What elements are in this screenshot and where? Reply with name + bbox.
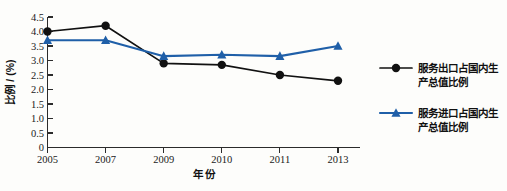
- legend-label-line1: 服务进口占国内生: [418, 107, 499, 119]
- line-chart-svg: 00.51.01.52.02.53.03.54.04.5 20052007200…: [0, 0, 507, 191]
- data-point: [101, 22, 109, 30]
- y-tick-label: 0: [39, 142, 44, 153]
- data-point: [333, 41, 342, 50]
- y-tick-label: 2.5: [31, 70, 44, 81]
- x-axis-title: 年 份: [193, 168, 217, 180]
- y-axis-title: 比例 / (%): [4, 59, 16, 104]
- y-tick-label: 3.5: [31, 41, 44, 52]
- data-series-layer: [43, 22, 343, 86]
- chart-axes: [48, 17, 361, 148]
- legend-label-line2: 产总值比例: [418, 121, 468, 133]
- x-tick-label: 2010: [211, 154, 232, 165]
- y-tick-label: 1.0: [31, 113, 44, 124]
- series-line-2: [48, 40, 339, 56]
- y-tick-label: 4.5: [31, 12, 44, 23]
- y-tick-label: 1.5: [31, 99, 44, 110]
- x-tick-label: 2007: [95, 154, 116, 165]
- x-tick-label: 2005: [37, 154, 58, 165]
- legend-label-line1: 服务出口占国内生: [418, 62, 499, 74]
- y-tick-label: 0.5: [31, 128, 44, 139]
- legend-label-line2: 产总值比例: [418, 76, 468, 88]
- data-point: [334, 77, 342, 85]
- y-tick-label: 3.0: [31, 55, 44, 66]
- data-point: [218, 61, 226, 69]
- x-tick-label: 2009: [153, 154, 174, 165]
- chart-legend: 服务出口占国内生产总值比例服务进口占国内生产总值比例: [380, 62, 499, 133]
- y-tick-label: 2.0: [31, 84, 44, 95]
- chart-figure: 00.51.01.52.02.53.03.54.04.5 20052007200…: [0, 0, 507, 191]
- legend-marker-circle-icon: [392, 64, 400, 72]
- x-tick-label: 2011: [270, 154, 291, 165]
- data-point: [276, 71, 284, 79]
- y-tick-label: 4.0: [31, 26, 44, 37]
- data-point: [43, 27, 51, 35]
- data-point: [160, 59, 168, 67]
- x-tick-label: 2013: [328, 154, 349, 165]
- x-axis-ticks: 200520072009201020112013: [37, 148, 349, 166]
